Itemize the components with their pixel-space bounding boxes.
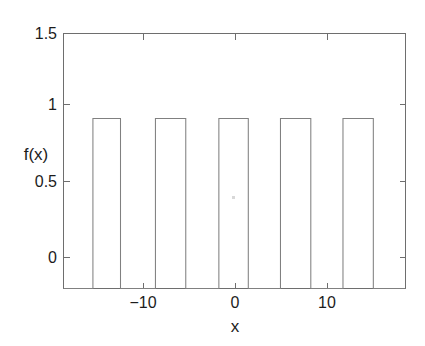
y-tick-label-0p5: 0.5 (35, 173, 57, 190)
figure-canvas: 1.5 1 0.5 0 −10 0 10 f(x) x (0, 0, 425, 346)
x-tick-label-0: 0 (231, 294, 240, 311)
axes-frame (64, 34, 406, 289)
square-wave-series (64, 119, 406, 289)
x-axis-title: x (231, 317, 240, 336)
x-axis-ticks (144, 34, 328, 289)
scan-artifact (232, 196, 235, 199)
y-tick-label-0: 0 (48, 249, 57, 266)
y-tick-label-1p5: 1.5 (35, 25, 57, 42)
y-axis-ticks (64, 34, 406, 258)
x-tick-label-10: 10 (318, 294, 336, 311)
square-wave-chart: 1.5 1 0.5 0 −10 0 10 f(x) x (0, 0, 425, 346)
y-tick-label-1: 1 (48, 96, 57, 113)
y-axis-title: f(x) (24, 145, 49, 164)
x-tick-label-minus10: −10 (129, 294, 156, 311)
